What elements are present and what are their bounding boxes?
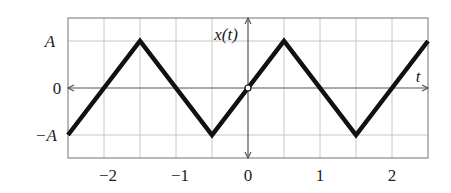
y-tick-label-minus-A: −A [35,126,57,145]
x-tick-label-1: 1 [316,166,325,185]
x-tick-label-2: 2 [388,166,397,185]
x-tick-label-minus-2: −2 [99,166,117,185]
y-tick-label-0: 0 [53,79,62,98]
y-tick-label-A: A [44,32,56,51]
triangle-wave-chart: A 0 −A −2 −1 0 1 2 x(t) t [0,0,451,193]
origin-open-circle-icon [245,85,251,91]
x-tick-label-minus-1: −1 [171,166,189,185]
x-tick-label-0: 0 [244,166,253,185]
y-axis-title: x(t) [213,25,238,44]
x-axis-title: t [416,67,422,86]
